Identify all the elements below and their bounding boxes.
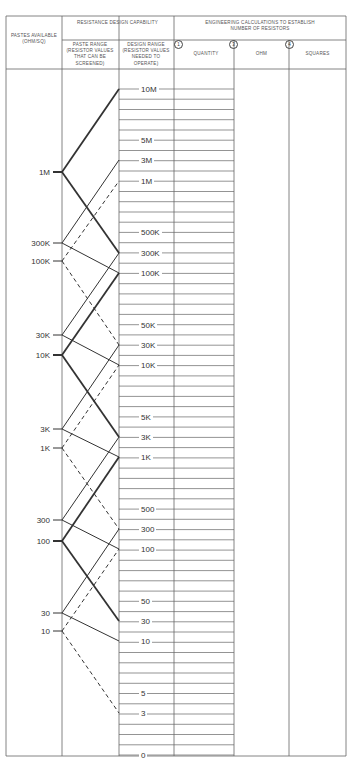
design-value-label: 500K bbox=[139, 228, 162, 237]
range-connection-line bbox=[62, 172, 119, 253]
design-value-label: 10M bbox=[139, 85, 159, 94]
range-connection-line bbox=[62, 253, 119, 335]
range-connection-line bbox=[62, 181, 119, 261]
header-resistance-design-capability: RESISTANCE DESIGN CAPABILITY bbox=[62, 20, 173, 26]
paste-label: 300K bbox=[10, 239, 50, 248]
design-value-label: 10K bbox=[139, 361, 157, 370]
design-value-label: 300K bbox=[139, 249, 162, 258]
circled-number-ohm: 3 bbox=[229, 40, 238, 49]
header-engineering-calculations: ENGINEERING CALCULATIONS TO ESTABLISH NU… bbox=[200, 20, 320, 32]
design-value-label: 10 bbox=[139, 637, 152, 646]
range-connection-line bbox=[62, 429, 119, 457]
paste-label: 1M bbox=[10, 168, 50, 177]
design-value-label: 30 bbox=[139, 617, 152, 626]
range-connection-line bbox=[62, 631, 119, 713]
range-connection-line bbox=[62, 448, 119, 529]
range-connection-line bbox=[62, 243, 119, 273]
paste-label: 1K bbox=[10, 444, 50, 453]
design-value-label: 300 bbox=[139, 525, 156, 534]
range-connection-line bbox=[62, 355, 119, 437]
design-value-label: 100 bbox=[139, 545, 156, 554]
design-value-label: 500 bbox=[139, 505, 156, 514]
header-quantity: QUANTITY bbox=[178, 51, 234, 57]
range-connection-line bbox=[62, 437, 119, 520]
paste-label: 30K bbox=[10, 331, 50, 340]
paste-label: 100 bbox=[10, 537, 50, 546]
circled-number-squares: 4 bbox=[285, 40, 294, 49]
paste-label: 30 bbox=[10, 609, 50, 618]
design-value-label: 3 bbox=[139, 709, 147, 718]
range-connection-line bbox=[62, 613, 119, 641]
header-ohm: OHM bbox=[234, 51, 289, 57]
range-connection-line bbox=[62, 529, 119, 613]
range-connection-line bbox=[62, 273, 119, 355]
resistor-design-chart: PASTES AVAILABLE (OHM/SQ) RESISTANCE DES… bbox=[0, 0, 349, 762]
design-value-label: 5K bbox=[139, 413, 153, 422]
header-pastes-available: PASTES AVAILABLE (OHM/SQ) bbox=[6, 33, 62, 45]
design-value-label: 100K bbox=[139, 269, 162, 278]
design-value-label: 50K bbox=[139, 321, 157, 330]
paste-label: 10 bbox=[10, 627, 50, 636]
design-value-label: 1M bbox=[139, 177, 154, 186]
range-connection-line bbox=[62, 160, 119, 243]
chart-grid bbox=[0, 0, 349, 762]
paste-label: 100K bbox=[10, 257, 50, 266]
header-squares: SQUARES bbox=[289, 51, 346, 57]
paste-label: 3K bbox=[10, 425, 50, 434]
range-connection-line bbox=[62, 335, 119, 365]
paste-label: 10K bbox=[10, 351, 50, 360]
design-value-label: 50 bbox=[139, 597, 152, 606]
design-value-label: 30K bbox=[139, 341, 157, 350]
design-value-label: 1K bbox=[139, 453, 153, 462]
header-paste-range: PASTE RANGE (RESISTOR VALUES THAT CAN BE… bbox=[64, 42, 116, 67]
range-connection-line bbox=[62, 520, 119, 549]
range-connection-line bbox=[62, 457, 119, 541]
range-connection-line bbox=[62, 549, 119, 631]
range-connection-line bbox=[62, 365, 119, 448]
paste-label: 300 bbox=[10, 516, 50, 525]
header-design-range: DESIGN RANGE (RESISTOR VALUES NEEDED TO … bbox=[120, 42, 172, 67]
range-connection-line bbox=[62, 345, 119, 429]
range-connection-line bbox=[62, 261, 119, 345]
range-connection-line bbox=[62, 89, 119, 172]
design-value-label: 0 bbox=[139, 751, 147, 760]
design-value-label: 5 bbox=[139, 689, 147, 698]
design-value-label: 5M bbox=[139, 136, 154, 145]
circled-number-quantity: 1 bbox=[174, 40, 183, 49]
design-value-label: 3M bbox=[139, 156, 154, 165]
design-value-label: 3K bbox=[139, 433, 153, 442]
range-connection-line bbox=[62, 541, 119, 621]
